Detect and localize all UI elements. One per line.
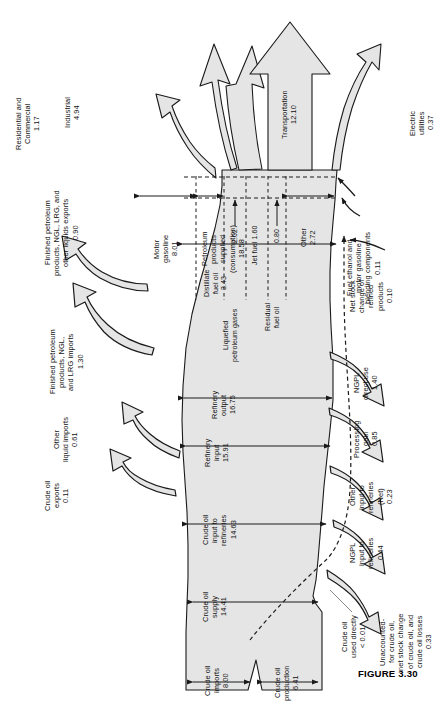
label-finished-exports: Finished petroleum products, NGL, LRG, a…	[43, 178, 80, 288]
label-liquefied-petroleum-gases: Liquefied petroleum gases	[222, 286, 239, 384]
figure-caption: FIGURE 3.30	[358, 668, 418, 679]
label-other-liquid-imports: Other liquid imports 0.61	[52, 400, 80, 480]
label-refinery-input: Refinery input 15.91	[203, 422, 231, 484]
consumption-arrows	[156, 22, 381, 178]
label-electric-utilities: Electric utilities 0.37	[408, 88, 436, 158]
label-motor-gasoline: Motor gasoline 8.01	[152, 216, 180, 282]
label-crude-oil-imports: Crude oil imports 8.00	[203, 652, 231, 710]
label-residual-fuel-oil-value: 0.80	[273, 224, 282, 248]
label-jet-fuel: Jet fuel 1.60	[251, 214, 260, 276]
label-industrial: Industrial 4.94	[63, 78, 81, 148]
label-ngpl-input-refineries: NGPL input to refineries 0.44	[348, 518, 385, 588]
label-liquefied-petroleum-value: 2.02	[231, 224, 240, 248]
label-transportation: Transportation 12.10	[280, 72, 298, 158]
label-crude-oil-used-directly: Crude oil used directly < 0.01	[340, 604, 368, 670]
label-net-stock-change-refined: Net stock change of refined products 0.1…	[348, 256, 394, 336]
label-finished-imports: Finished petroleum products, NGL, and LR…	[48, 310, 85, 414]
figure-page: Residential and Commercial 1.17 Industri…	[0, 0, 444, 717]
label-crude-oil-input-refineries: Crude oil input to refineries 14.63	[201, 496, 238, 564]
label-crude-oil-production: Crude oil production 6.41	[273, 652, 301, 714]
label-other-products: Other 2.72	[299, 216, 317, 260]
label-residential-commercial: Residential and Commercial 1.17	[14, 78, 42, 170]
label-crude-oil-supply: Crude oil supply 14.41	[201, 576, 229, 638]
fuel-ethanol-arrow	[338, 178, 355, 196]
label-residual-fuel-oil: Residual fuel oil	[264, 288, 281, 346]
